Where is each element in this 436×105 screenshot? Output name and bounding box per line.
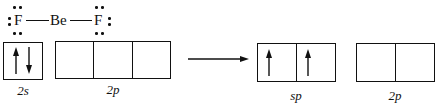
orbital-box-2p-ground <box>55 41 171 79</box>
lewis-structure-bef2: F Be F <box>4 2 124 36</box>
orbital-cell <box>94 42 132 78</box>
electron-up-arrow-icon <box>258 44 296 80</box>
lone-pair-dot <box>19 6 22 9</box>
electron-pair-up-down-icon <box>4 43 41 78</box>
lone-pair-dot <box>8 23 11 26</box>
orbital-cell <box>357 44 396 81</box>
single-bond <box>70 20 92 21</box>
lone-pair-dot <box>101 32 104 35</box>
electron-up-arrow-icon <box>297 44 335 80</box>
atom-f-right: F <box>94 13 102 28</box>
label-2p-ground: 2p <box>107 82 120 98</box>
lone-pair-dot <box>95 6 98 9</box>
lone-pair-dot <box>95 32 98 35</box>
lone-pair-dot <box>19 32 22 35</box>
label-2s: 2s <box>17 83 29 99</box>
orbital-cell <box>258 44 297 81</box>
lone-pair-dot <box>13 6 16 9</box>
label-2p-hybrid: 2p <box>389 88 402 104</box>
orbital-box-2p-hybrid <box>356 43 435 82</box>
orbital-box-2s <box>3 42 43 80</box>
orbital-box-sp <box>257 43 336 82</box>
lone-pair-dot <box>108 23 111 26</box>
atom-be: Be <box>50 13 67 28</box>
orbital-cell <box>56 42 94 78</box>
orbital-cell <box>297 44 335 81</box>
single-bond <box>26 20 49 21</box>
lone-pair-dot <box>8 17 11 20</box>
orbital-cell <box>396 44 434 81</box>
atom-f-left: F <box>14 13 22 28</box>
lone-pair-dot <box>13 32 16 35</box>
orbital-cell <box>133 42 170 78</box>
label-sp: sp <box>290 88 302 104</box>
lone-pair-dot <box>101 6 104 9</box>
lone-pair-dot <box>108 17 111 20</box>
orbital-cell <box>4 43 42 79</box>
